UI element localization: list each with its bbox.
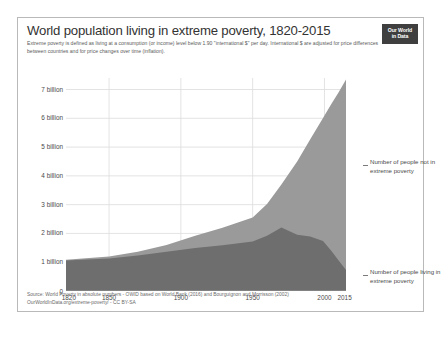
owid-logo[interactable]: Our World in Data bbox=[382, 24, 418, 44]
chart-header: World population living in extreme pover… bbox=[27, 23, 387, 55]
legend-in-poverty: Number of people living in extreme pover… bbox=[370, 268, 442, 286]
y-tick-label: 4 billion bbox=[21, 172, 63, 179]
stacked-area-chart bbox=[66, 78, 346, 291]
y-tick-label: 2 billion bbox=[21, 229, 63, 236]
chart-subtitle: Extreme poverty is defined as living at … bbox=[27, 40, 379, 55]
owid-logo-line2: in Data bbox=[392, 34, 409, 40]
y-tick-label: 3 billion bbox=[21, 201, 63, 208]
license-line[interactable]: OurWorldInData.org/extreme-poverty/ - CC… bbox=[27, 299, 417, 307]
legend-connector-icon bbox=[363, 275, 368, 276]
chart-plot-area: 0 1 billion2 billion3 billion4 billion5 … bbox=[66, 78, 346, 291]
chart-card: World population living in extreme pover… bbox=[17, 17, 424, 312]
y-tick-label: 6 billion bbox=[21, 114, 63, 121]
y-tick-label: 1 billion bbox=[21, 258, 63, 265]
source-line: Source: World Poverty in absolute number… bbox=[27, 291, 417, 299]
chart-title: World population living in extreme pover… bbox=[27, 23, 387, 38]
chart-footer: Source: World Poverty in absolute number… bbox=[27, 291, 417, 307]
legend-not-in-poverty-label: Number of people not in extreme poverty bbox=[370, 158, 435, 174]
y-tick-label: 5 billion bbox=[21, 143, 63, 150]
legend-connector-icon bbox=[363, 165, 368, 166]
legend-in-poverty-label: Number of people living in extreme pover… bbox=[370, 268, 440, 284]
legend-not-in-poverty: Number of people not in extreme poverty bbox=[370, 158, 442, 176]
y-tick-label: 7 billion bbox=[21, 86, 63, 93]
